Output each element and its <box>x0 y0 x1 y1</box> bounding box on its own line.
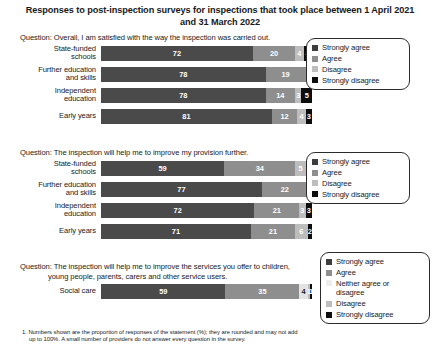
legend-swatch-icon <box>312 77 318 83</box>
bar-row-label-line2: schools <box>0 168 96 176</box>
bar-segment-sa: 78 <box>101 67 266 82</box>
bar-row-label: State-fundedschools <box>0 45 101 62</box>
legend-swatch-icon <box>312 180 318 186</box>
legend-swatch-icon <box>326 280 332 286</box>
bar-row-label: Independenteducation <box>0 87 101 104</box>
legend-swatch-icon <box>326 259 332 265</box>
stacked-bar: 712162 <box>101 224 312 239</box>
bar-segment-ag: 19 <box>266 67 306 82</box>
legend-3: Strongly agreeAgreeNeither agree or disa… <box>320 252 430 324</box>
legend-swatch-icon <box>326 301 332 307</box>
legend-label: Disagree <box>322 65 352 74</box>
legend-item: Agree <box>326 268 423 277</box>
legend-item: Disagree <box>326 299 423 308</box>
bar-segment-nt: 4 <box>299 284 307 299</box>
bar-segment-sd: 5 <box>301 88 312 103</box>
legend-item: Strongly agree <box>312 157 403 166</box>
bar-segment-sa: 72 <box>101 46 253 61</box>
legend-label: Disagree <box>336 299 366 308</box>
bar-segment-ag: 22 <box>262 182 308 197</box>
page-title: Responses to post-inspection surveys for… <box>0 0 440 28</box>
chart-page: Responses to post-inspection surveys for… <box>0 0 440 356</box>
bar-row-label-line1: Early years <box>0 112 96 120</box>
bar-segment-ag: 21 <box>254 203 299 218</box>
legend-item: Agree <box>312 168 403 177</box>
stacked-bar: 811243 <box>101 109 312 124</box>
bar-segment-ag: 34 <box>224 161 295 176</box>
bar-row-label: Independenteducation <box>0 202 101 219</box>
bar-segment-dg: 4 <box>295 46 303 61</box>
bar-row-label-line2: and skills <box>0 189 96 197</box>
question-text-3-line1: Question: The inspection will help me to… <box>20 262 290 271</box>
bar-segment-dg: 4 <box>297 109 305 124</box>
bar-row-label: Early years <box>0 227 101 235</box>
bar-segment-dg: 6 <box>295 224 308 239</box>
legend-label: Agree <box>336 268 356 277</box>
bar-row-label-line2: education <box>0 95 96 103</box>
legend-item: Strongly disagree <box>326 310 423 319</box>
stacked-bar: 5935411 <box>101 284 312 299</box>
bar-segment-sa: 59 <box>101 284 225 299</box>
bar-segment-sa: 59 <box>101 161 224 176</box>
stacked-bar: 781435 <box>101 88 312 103</box>
bar-segment-ag: 14 <box>266 88 296 103</box>
bar-segment-ag: 35 <box>225 284 299 299</box>
bar-row-label: Further educationand skills <box>0 66 101 83</box>
legend-swatch-icon <box>326 312 332 318</box>
legend-label: Agree <box>322 54 342 63</box>
legend-swatch-icon <box>312 56 318 62</box>
legend-label: Strongly agree <box>322 157 370 166</box>
legend-item: Strongly disagree <box>312 190 403 199</box>
legend-swatch-icon <box>312 66 318 72</box>
bar-segment-sa: 81 <box>101 109 272 124</box>
legend-2: Strongly agreeAgreeDisagreeStrongly disa… <box>306 152 410 204</box>
bar-row-label-line1: Early years <box>0 227 96 235</box>
stacked-bar: 781921 <box>101 67 312 82</box>
legend-label: Strongly disagree <box>322 76 379 85</box>
bar-segment-dg: 5 <box>295 161 305 176</box>
bar-segment-ag: 12 <box>272 109 297 124</box>
bar-segment-sa: 71 <box>101 224 251 239</box>
legend-label: Disagree <box>322 179 352 188</box>
stacked-bar: 722133 <box>101 203 312 218</box>
bar-row: Early years811243 <box>0 108 440 125</box>
bar-segment-ag: 21 <box>251 224 295 239</box>
bar-segment-sa: 77 <box>101 182 262 197</box>
bar-row-label: Early years <box>0 112 101 120</box>
legend-item: Neither agree or disagree <box>326 279 423 298</box>
legend-item: Disagree <box>312 179 403 188</box>
bar-segment-sd: 3 <box>306 203 312 218</box>
legend-label: Agree <box>322 168 342 177</box>
bar-segment-sa: 78 <box>101 88 266 103</box>
legend-label: Strongly disagree <box>336 310 393 319</box>
footnote-line2: up to 100%. A small number of providers … <box>22 336 440 343</box>
legend-item: Strongly disagree <box>312 76 403 85</box>
stacked-bar: 593453 <box>101 161 312 176</box>
bar-segment-sd: 1 <box>310 284 312 299</box>
legend-item: Agree <box>312 54 403 63</box>
legend-item: Strongly agree <box>312 43 403 52</box>
legend-label: Strongly agree <box>336 257 384 266</box>
legend-label: Strongly disagree <box>322 190 379 199</box>
bar-segment-sd: 3 <box>306 109 312 124</box>
bar-row-label-line2: education <box>0 210 96 218</box>
legend-item: Disagree <box>312 65 403 74</box>
legend-swatch-icon <box>312 170 318 176</box>
legend-swatch-icon <box>312 159 318 165</box>
bar-segment-sd: 2 <box>308 224 312 239</box>
bar-row-label-line1: Social care <box>0 287 96 295</box>
legend-swatch-icon <box>312 45 318 51</box>
bar-row: Independenteducation722133 <box>0 202 440 219</box>
stacked-bar: 772211 <box>101 182 312 197</box>
bar-row: Early years712162 <box>0 223 440 240</box>
bar-row-label: State-fundedschools <box>0 160 101 177</box>
footnote: 1. Numbers shown are the proportion of r… <box>0 329 440 344</box>
bar-segment-sa: 72 <box>101 203 254 218</box>
footnote-line1: 1. Numbers shown are the proportion of r… <box>22 329 297 335</box>
stacked-bar: 722044 <box>101 46 312 61</box>
bar-row-label-line2: schools <box>0 53 96 61</box>
bar-row-label: Further educationand skills <box>0 181 101 198</box>
legend-item: Strongly agree <box>326 257 423 266</box>
legend-swatch-icon <box>326 270 332 276</box>
legend-label: Strongly agree <box>322 43 370 52</box>
